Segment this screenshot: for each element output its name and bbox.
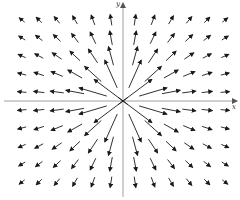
vector-arrow bbox=[151, 177, 155, 187]
vector-arrow bbox=[204, 17, 210, 22]
x-axis-label: x bbox=[232, 103, 236, 111]
vector-arrow bbox=[169, 178, 174, 186]
vector-arrow bbox=[54, 17, 59, 24]
vector-arrow bbox=[221, 73, 229, 75]
vector-arrow bbox=[36, 35, 43, 40]
vector-arrow bbox=[133, 137, 138, 156]
vector-arrow bbox=[145, 67, 162, 82]
vector-arrow bbox=[151, 15, 155, 25]
vector-arrow bbox=[168, 160, 175, 169]
vector-arrow bbox=[202, 109, 213, 110]
vector-arrow bbox=[35, 54, 43, 58]
vector-arrow bbox=[53, 161, 60, 168]
vector-arrow bbox=[202, 72, 212, 75]
vector-arrow bbox=[109, 137, 114, 156]
vector-arrow bbox=[66, 90, 84, 93]
vector-arrow bbox=[222, 36, 228, 40]
vector-arrow bbox=[34, 126, 44, 129]
vector-arrow bbox=[203, 54, 211, 58]
vector-arrow bbox=[185, 161, 192, 168]
vector-arrow bbox=[18, 92, 27, 93]
vector-arrow bbox=[19, 18, 24, 22]
vector-arrow bbox=[221, 127, 229, 129]
vector-arrow bbox=[91, 15, 95, 25]
vector-arrow bbox=[222, 162, 228, 166]
vector-arrow bbox=[150, 158, 156, 170]
vector-arrow bbox=[204, 179, 210, 184]
vector-arrow bbox=[73, 16, 78, 24]
vector-arrow bbox=[169, 16, 174, 24]
vector-arrow bbox=[221, 92, 230, 93]
vector-arrow bbox=[221, 144, 228, 147]
vector-arrow bbox=[184, 53, 193, 59]
vector-arrow bbox=[72, 34, 79, 43]
vector-arrow bbox=[168, 34, 175, 43]
vector-arrow bbox=[134, 31, 137, 45]
vector-arrow bbox=[18, 54, 25, 57]
vector-arrow bbox=[54, 179, 59, 186]
vector-arrow bbox=[19, 36, 25, 40]
vector-arrow bbox=[221, 110, 230, 111]
vector-arrow bbox=[88, 49, 97, 63]
vector-arrow bbox=[129, 60, 141, 88]
vector-arrow bbox=[50, 109, 63, 111]
vector-arrow bbox=[166, 51, 176, 60]
vector-arrow bbox=[36, 17, 42, 22]
vector-arrow bbox=[184, 143, 193, 149]
vector-arrow bbox=[139, 88, 167, 96]
vector-arrow bbox=[36, 161, 43, 166]
vector-arrow bbox=[52, 143, 61, 149]
vector-arrow bbox=[51, 126, 63, 131]
vector-arrow bbox=[202, 126, 212, 129]
vector-arrow bbox=[204, 161, 211, 166]
vector-arrow bbox=[134, 15, 136, 26]
vector-arrow bbox=[166, 141, 176, 150]
vector-arrow bbox=[18, 73, 26, 75]
vector-arrow bbox=[70, 141, 80, 150]
vector-arrow bbox=[164, 70, 178, 78]
vector-arrow bbox=[164, 124, 178, 132]
vector-arrow bbox=[221, 54, 228, 57]
vector-arrow bbox=[34, 91, 45, 92]
vector-arrow bbox=[85, 121, 102, 136]
vector-arrow bbox=[129, 114, 141, 142]
vector-arrow bbox=[183, 126, 195, 131]
vector-arrow bbox=[72, 160, 79, 169]
vector-arrow bbox=[52, 53, 61, 59]
vector-arrow bbox=[183, 72, 195, 77]
vector-arrow bbox=[50, 91, 63, 93]
vector-arrow bbox=[150, 32, 156, 44]
vector-arrow bbox=[51, 72, 63, 77]
vector-arrow bbox=[133, 47, 138, 66]
vector-arrow bbox=[222, 18, 227, 22]
vector-arrow bbox=[90, 32, 96, 44]
vector-arrow bbox=[148, 139, 157, 153]
vector-arrow bbox=[186, 179, 191, 186]
vector-arrow bbox=[110, 15, 112, 26]
vector-arrow bbox=[139, 106, 167, 114]
vector-arrow bbox=[34, 72, 44, 75]
vector-arrow bbox=[79, 106, 107, 114]
vector-arrow bbox=[68, 124, 82, 132]
vector-arrow bbox=[88, 139, 97, 153]
vector-arrow bbox=[110, 157, 113, 171]
vector-arrow bbox=[109, 47, 114, 66]
vector-arrow bbox=[110, 177, 112, 188]
vector-arrow bbox=[19, 162, 25, 166]
vector-arrow bbox=[90, 158, 96, 170]
vector-arrow bbox=[70, 51, 80, 60]
vector-arrow bbox=[204, 35, 211, 40]
vector-arrow bbox=[66, 108, 84, 111]
vector-arrow bbox=[182, 109, 195, 111]
vector-arrow bbox=[134, 177, 136, 188]
vector-arrow bbox=[134, 157, 137, 171]
vector-arrow bbox=[68, 70, 82, 78]
vector-field-plot bbox=[0, 0, 240, 200]
vector-arrow bbox=[105, 60, 117, 88]
vector-arrow bbox=[202, 91, 213, 92]
y-axis-label: y bbox=[116, 0, 120, 8]
vector-arrow bbox=[35, 144, 43, 148]
vector-arrow bbox=[91, 177, 95, 187]
vector-arrow bbox=[222, 180, 227, 184]
vector-arrow bbox=[148, 49, 157, 63]
